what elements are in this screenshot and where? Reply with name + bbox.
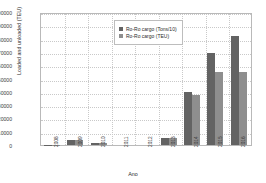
legend-item-tons: Ro-Ro cargo (Tons/10)	[119, 26, 177, 32]
legend-swatch-icon-teu	[119, 34, 123, 38]
x-axis-tick-label: 2015	[218, 125, 223, 147]
bar-2010-series-0	[91, 143, 99, 145]
bar-2014-series-0	[184, 92, 192, 145]
x-axis-tick-label: 2009	[78, 125, 83, 147]
y-axis-tick-label: 100000	[0, 10, 12, 16]
y-axis-tick-label: 0	[0, 143, 12, 149]
y-axis-tick-label: 50000	[0, 77, 12, 83]
legend-item-teu: Ro-Ro cargo (TEU)	[119, 33, 177, 39]
bar-group	[64, 14, 87, 145]
y-axis-tick-label: 60000	[0, 63, 12, 69]
bar-group	[228, 14, 251, 145]
x-axis-tick-label: 2016	[241, 125, 246, 147]
chart-legend: Ro-Ro cargo (Tons/10) Ro-Ro cargo (TEU)	[114, 20, 183, 45]
bar-group	[181, 14, 204, 145]
y-axis-tick-label: 30000	[0, 103, 12, 109]
x-axis-tick-label: 2010	[101, 125, 106, 147]
y-axis-tick-label: 70000	[0, 50, 12, 56]
legend-label-tons: Ro-Ro cargo (Tons/10)	[126, 26, 177, 32]
x-axis-tick-label: 2011	[124, 125, 129, 147]
bar-group	[204, 14, 227, 145]
y-axis-tick-label: 40000	[0, 90, 12, 96]
y-axis-tick-label: 80000	[0, 37, 12, 43]
y-axis-tick-label: 20000	[0, 116, 12, 122]
bar-group	[88, 14, 111, 145]
bar-2009-series-0	[67, 140, 75, 146]
x-axis-tick-label: 2012	[148, 125, 153, 147]
x-axis-title: Ano	[0, 171, 266, 177]
x-axis-tick-label: 2008	[54, 125, 59, 147]
x-axis-tick-label: 2013	[171, 125, 176, 147]
x-axis-tick-labels: 200820092010201120122013201420152016	[41, 147, 251, 171]
legend-label-teu: Ro-Ro cargo (TEU)	[126, 33, 169, 39]
bar-group	[41, 14, 64, 145]
y-axis-tick-label: 90000	[0, 23, 12, 29]
bar-2015-series-0	[207, 53, 215, 145]
x-axis-tick-label: 2014	[194, 125, 199, 147]
y-axis-tick-label: 10000	[0, 130, 12, 136]
bar-2016-series-0	[231, 36, 239, 145]
ro-ro-cargo-bar-chart: Loaded and unloaded (TEU) 01000020000300…	[0, 0, 266, 183]
legend-swatch-icon-tons	[119, 27, 123, 31]
bar-2013-series-0	[161, 138, 169, 145]
